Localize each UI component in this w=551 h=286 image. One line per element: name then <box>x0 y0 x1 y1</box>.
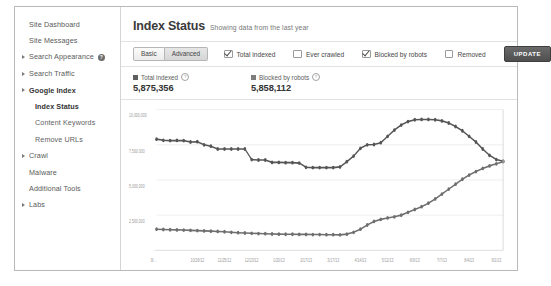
filter-checkbox-blocked-by-robots[interactable]: Blocked by robots <box>362 50 427 59</box>
sidebar-item-search-traffic[interactable]: Search Traffic <box>15 66 120 82</box>
chart-data-point <box>291 232 294 236</box>
chart-data-point <box>373 220 376 224</box>
chart-data-point <box>169 139 172 143</box>
chart-data-point <box>454 125 457 129</box>
chart-data-point <box>284 232 287 236</box>
stat-label: Blocked by robots <box>259 74 309 81</box>
chart-y-tick-label: 7,500,000 <box>129 148 145 154</box>
chart-data-point <box>488 153 491 157</box>
chart-x-tick-label: 8/4/13 <box>464 257 474 263</box>
chart-data-point <box>244 231 247 235</box>
sidebar-item-site-dashboard[interactable]: Site Dashboard <box>15 16 120 32</box>
chart-data-point <box>284 161 287 165</box>
chart-data-point <box>468 173 471 177</box>
sidebar-item-site-messages[interactable]: Site Messages <box>15 32 120 48</box>
chart-data-point <box>488 164 491 168</box>
series-color-swatch-icon <box>133 75 138 80</box>
page-subtitle: Showing data from the last year <box>210 24 309 31</box>
chart-data-point <box>291 161 294 165</box>
help-question-icon[interactable]: ? <box>181 73 189 81</box>
chart-data-point <box>407 120 410 124</box>
chart-data-point <box>203 229 206 233</box>
filter-label: Blocked by robots <box>375 51 427 58</box>
stat-label-row: Blocked by robots? <box>251 73 369 81</box>
chart-data-point <box>468 134 471 138</box>
chart-data-point <box>339 165 342 169</box>
chart-data-point <box>379 217 382 221</box>
chart-data-point <box>441 119 444 123</box>
chart-data-point <box>189 140 192 144</box>
chart-data-point <box>318 166 321 170</box>
chart-data-point <box>271 160 274 164</box>
filter-checkbox-group: Total indexedEver crawledBlocked by robo… <box>224 50 504 59</box>
chart-data-point <box>257 232 260 236</box>
sidebar-item-label: Site Messages <box>29 36 77 45</box>
chart-gridlines <box>157 110 504 216</box>
chart-data-point <box>162 138 165 142</box>
chart-data-point <box>413 208 416 212</box>
page-header: Index StatusShowing data from the last y… <box>121 7 517 41</box>
chart-data-point <box>393 215 396 219</box>
chart-x-tick-label: 4/14/13 <box>355 257 367 263</box>
checkmark-icon <box>224 50 233 59</box>
chart-data-point <box>216 230 219 234</box>
page-title: Index Status <box>133 19 205 33</box>
chart-container: 10,000,0007,500,0005,000,0002,500,000 9/… <box>121 100 517 270</box>
filter-checkbox-removed[interactable]: Removed <box>445 50 486 59</box>
chart-data-point <box>278 232 281 236</box>
chart-data-point <box>386 216 389 220</box>
chart-data-point <box>447 121 450 125</box>
chart-y-tick-label: 2,500,000 <box>129 218 145 224</box>
chart-x-tick-label: 11/25/12 <box>218 257 232 263</box>
sidebar-item-label: Malware <box>29 168 57 177</box>
chart-data-point <box>434 197 437 201</box>
filter-checkbox-ever-crawled[interactable]: Ever crawled <box>293 50 344 59</box>
sidebar-item-search-appearance[interactable]: Search Appearance? <box>15 49 120 66</box>
chart-data-point <box>332 233 335 237</box>
app-frame: Site DashboardSite MessagesSearch Appear… <box>14 6 518 271</box>
chart-x-tick-label: 12/23/12 <box>245 257 259 263</box>
empty-checkbox-icon <box>445 50 454 59</box>
sidebar-item-malware[interactable]: Malware <box>15 164 120 180</box>
filter-checkbox-total-indexed[interactable]: Total indexed <box>224 50 275 59</box>
sidebar-item-label: Search Traffic <box>29 69 75 78</box>
chart-data-point <box>312 166 315 170</box>
sidebar-item-crawl[interactable]: Crawl <box>15 148 120 164</box>
filter-label: Ever crawled <box>306 51 344 58</box>
chart-data-point <box>162 228 165 232</box>
sidebar-item-additional-tools[interactable]: Additional Tools <box>15 180 120 196</box>
chart-series-line-total-indexed <box>157 119 504 167</box>
basic-view-button[interactable]: Basic <box>133 47 165 62</box>
chart-data-point <box>495 162 498 166</box>
advanced-view-button[interactable]: Advanced <box>165 47 208 62</box>
sidebar-item-label: Labs <box>29 200 45 209</box>
chart-data-point <box>379 141 382 145</box>
chart-x-tick-label: 2/17/13 <box>300 257 312 263</box>
chart-data-point <box>454 182 457 186</box>
sidebar-item-google-index[interactable]: Google Index <box>15 82 120 98</box>
help-question-icon[interactable]: ? <box>312 73 320 81</box>
chart-data-point <box>427 118 430 122</box>
sidebar-item-label: Search Appearance <box>29 52 94 61</box>
chart-y-axis-labels: 10,000,0007,500,0005,000,0002,500,000 <box>129 113 147 224</box>
chart-data-point <box>305 165 308 169</box>
chart-data-point <box>366 143 369 147</box>
sidebar-item-labs[interactable]: Labs <box>15 197 120 213</box>
update-button[interactable]: UPDATE <box>504 46 551 62</box>
chart-data-point <box>155 227 158 231</box>
chart-data-point <box>196 229 199 233</box>
chart-data-point <box>427 201 430 205</box>
chart-data-point <box>434 118 437 122</box>
sidebar-item-label: Index Status <box>35 102 79 111</box>
chart-x-tick-label: 9/1/13 <box>491 257 501 263</box>
chart-data-point <box>413 118 416 122</box>
sidebar-item-label: Remove URLs <box>35 135 83 144</box>
chart-data-point <box>352 230 355 234</box>
chart-data-point <box>345 232 348 236</box>
sidebar-item-index-status[interactable]: Index Status <box>15 98 120 114</box>
chart-data-point <box>250 158 253 162</box>
sidebar-item-remove-urls[interactable]: Remove URLs <box>15 131 120 147</box>
chart-data-point <box>155 137 158 141</box>
chart-data-point <box>169 228 172 232</box>
sidebar-item-content-keywords[interactable]: Content Keywords <box>15 115 120 131</box>
